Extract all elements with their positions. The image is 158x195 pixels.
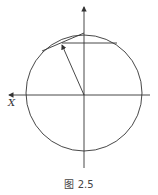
- x-axis-label: X: [8, 97, 15, 108]
- figure-caption: 图 2.5: [0, 176, 158, 191]
- diagram-canvas: [0, 0, 158, 195]
- radius-vector-arrow: [62, 45, 84, 95]
